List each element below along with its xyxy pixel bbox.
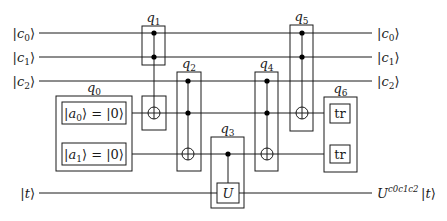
wire-label-right-c1: |c1⟩ [377, 50, 399, 67]
group-q3: q3U [211, 121, 244, 208]
wire-label-right-c0: |c0⟩ [377, 26, 399, 43]
control-dot-1 [151, 54, 156, 59]
group-q0: q0|a0⟩ = |0⟩|a1⟩ = |0⟩ [56, 80, 132, 171]
wire-label-left-c1: |c1⟩ [13, 50, 35, 67]
wire-label-right-c2: |c2⟩ [377, 74, 399, 91]
wire-label-left-c0: |c0⟩ [13, 26, 35, 43]
group-label-q3: q3 [220, 121, 234, 138]
group-label-q1: q1 [146, 10, 160, 27]
control-dot-0 [299, 30, 304, 35]
init-label-0: |a0⟩ = |0⟩ [64, 106, 124, 123]
wire-label-right-t: Uc0c1c2 |t⟩ [377, 184, 436, 201]
quantum-circuit-diagram: q0|a0⟩ = |0⟩|a1⟩ = |0⟩q1q2q3Uq4q5q6trtr … [0, 0, 447, 221]
trace-label-0: tr [334, 106, 346, 121]
control-dot-0 [151, 30, 156, 35]
wire-label-left-c2: |c2⟩ [13, 74, 35, 91]
wire-label-left-t: |t⟩ [20, 186, 35, 201]
control-dot-0 [225, 151, 230, 156]
group-label-q4: q4 [259, 56, 273, 73]
control-dot-0 [264, 78, 269, 83]
group-label-q0: q0 [87, 80, 101, 97]
control-dot-1 [264, 110, 269, 115]
group-label-q6: q6 [333, 81, 347, 98]
unitary-gate-label: U [223, 186, 235, 201]
group-q6: q6trtr [324, 81, 357, 172]
gate-groups-layer: q0|a0⟩ = |0⟩|a1⟩ = |0⟩q1q2q3Uq4q5q6trtr [56, 9, 357, 208]
control-dot-0 [185, 78, 190, 83]
group-label-q2: q2 [182, 56, 196, 73]
group-q1: q1 [142, 10, 166, 130]
trace-label-1: tr [334, 147, 346, 162]
init-label-1: |a1⟩ = |0⟩ [64, 147, 124, 164]
group-label-q5: q5 [294, 9, 308, 26]
control-dot-1 [185, 110, 190, 115]
control-dot-1 [299, 54, 304, 59]
